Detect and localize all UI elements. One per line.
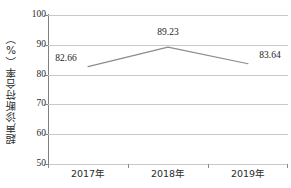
y-tick-mark-70: [44, 104, 48, 105]
data-label-2018年: 89.23: [157, 27, 178, 37]
y-tick-mark-90: [44, 45, 48, 46]
x-axis-tick-labels: 2017年2018年2019年: [48, 168, 288, 186]
plot-area: 82.6689.2383.64: [48, 15, 288, 164]
x-tick-label-2018年: 2018年: [151, 168, 185, 180]
data-label-2019年: 83.64: [259, 50, 280, 60]
gridline-y-90: [48, 45, 288, 46]
gridline-y-100: [48, 15, 288, 16]
y-axis-title-text: 超声诊断符合率（%）: [6, 33, 17, 144]
series-line: [48, 15, 288, 164]
series-polyline: [88, 47, 248, 67]
line-chart: 超声诊断符合率（%） 5060708090100 82.6689.2383.64…: [0, 0, 291, 188]
y-tick-mark-100: [44, 15, 48, 16]
gridline-y-60: [48, 134, 288, 135]
x-tick-label-2019年: 2019年: [231, 168, 265, 180]
x-tick-label-2017年: 2017年: [71, 168, 105, 180]
data-label-2017年: 82.66: [55, 53, 76, 63]
gridline-y-50: [48, 164, 288, 165]
y-tick-mark-60: [44, 134, 48, 135]
gridline-y-80: [48, 75, 288, 76]
y-tick-mark-80: [44, 75, 48, 76]
y-axis-tick-labels: 5060708090100: [20, 0, 46, 188]
y-axis-title: 超声诊断符合率（%）: [2, 18, 20, 158]
gridline-y-70: [48, 104, 288, 105]
